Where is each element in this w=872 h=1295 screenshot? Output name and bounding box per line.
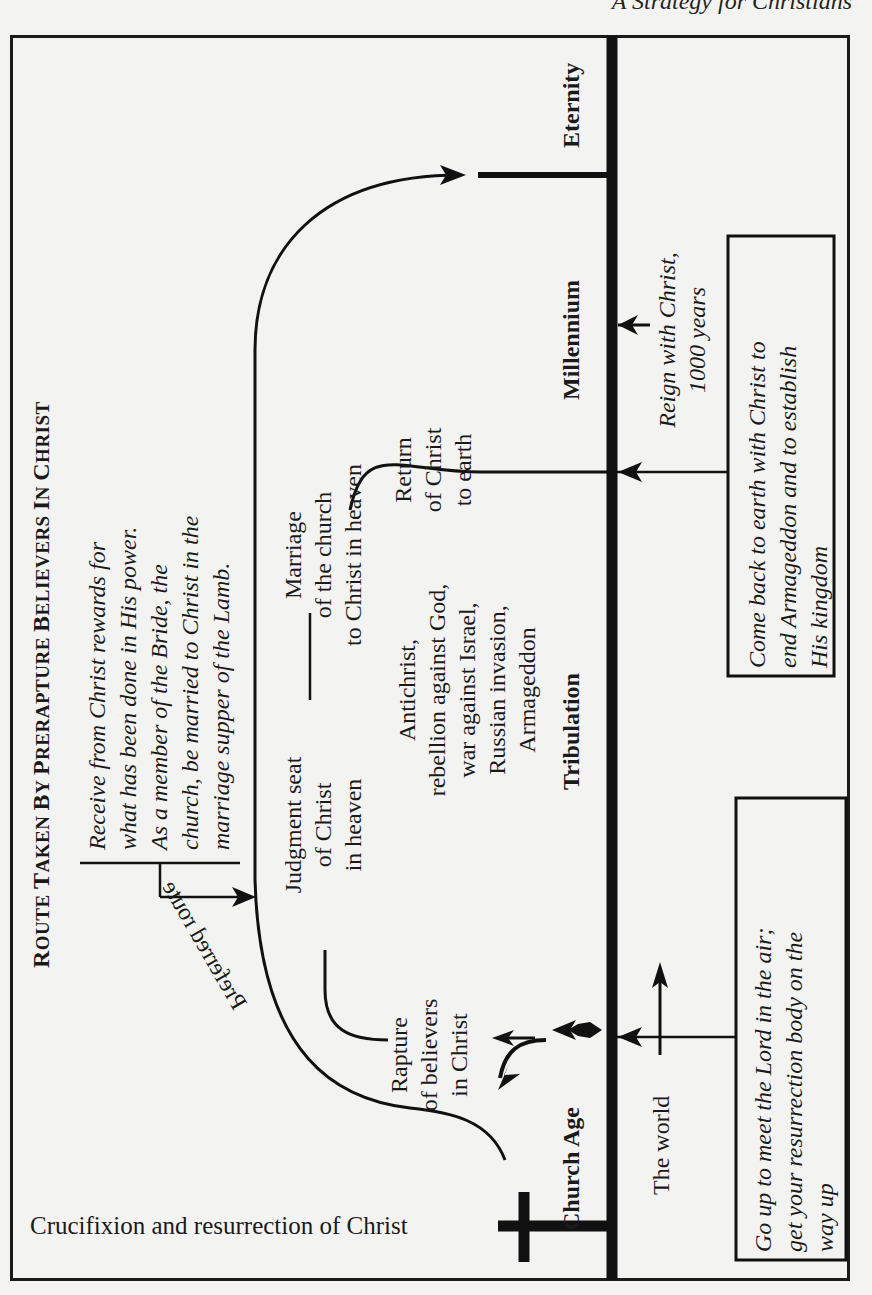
return-box: Come back to earth with Christ to end Ar… — [742, 238, 835, 668]
period-eternity: Eternity — [556, 63, 586, 148]
crucifixion-label: Crucifixion and resurrection of Christ — [30, 1212, 408, 1240]
rapture-label: Rapture of believers in Christ — [384, 975, 474, 1135]
rewards-note: Receive from Christ rewards for what has… — [82, 410, 237, 850]
diagram-title: ROUTE TAKEN BY PRERAPTURE BELIEVERS IN C… — [28, 401, 55, 968]
tribulation-events: Antichrist, rebellion against God, war a… — [392, 560, 542, 820]
period-tribulation: Tribulation — [556, 673, 586, 790]
the-world-label: The world — [646, 1096, 676, 1195]
period-church-age: Church Age — [556, 1107, 586, 1230]
reign-note: Reign with Christ, 1000 years — [652, 240, 712, 440]
rapture-box: Go up to meet the Lord in the air; get y… — [748, 812, 841, 1252]
judgment-seat-label: Judgment seat of Christ in heaven — [278, 740, 368, 910]
marriage-label: Marriage of the church to Christ in heav… — [278, 420, 368, 690]
return-label: Return of Christ to earth — [388, 400, 478, 540]
period-millennium: Millennium — [556, 280, 586, 400]
